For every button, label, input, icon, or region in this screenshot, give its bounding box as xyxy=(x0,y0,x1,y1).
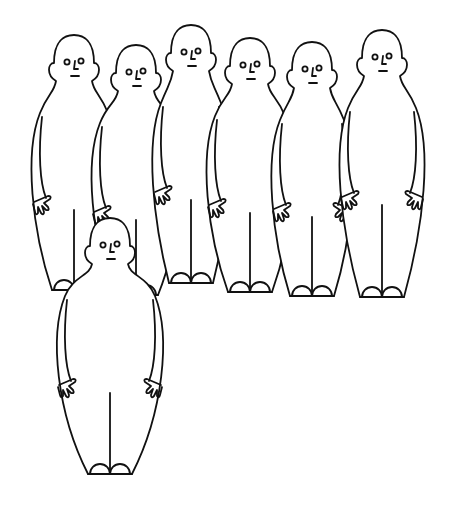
figure-back-right xyxy=(339,30,424,297)
figures-drawing xyxy=(0,0,450,505)
illustration-canvas: Seven bald cartoon figures standing in a… xyxy=(0,0,450,505)
